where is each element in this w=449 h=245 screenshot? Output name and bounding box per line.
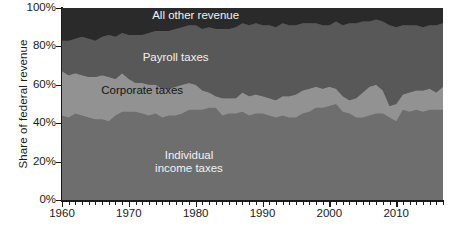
x-minor-tick <box>430 201 431 205</box>
x-minor-tick <box>269 201 270 205</box>
stacked-area-svg <box>62 8 443 200</box>
x-minor-tick <box>75 201 76 205</box>
x-minor-tick <box>156 201 157 205</box>
x-minor-tick <box>115 201 116 205</box>
x-minor-tick <box>343 201 344 205</box>
x-minor-tick <box>136 201 137 205</box>
x-tick-label: 2010 <box>383 207 409 219</box>
x-minor-tick <box>436 201 437 205</box>
x-minor-tick <box>376 201 377 205</box>
y-tick-label: 40% <box>10 117 56 129</box>
x-minor-tick <box>363 201 364 205</box>
y-tick-mark <box>56 8 61 9</box>
x-minor-tick <box>323 201 324 205</box>
x-minor-tick <box>122 201 123 205</box>
x-minor-tick <box>162 201 163 205</box>
y-tick-mark <box>56 162 61 163</box>
y-tick-mark <box>56 46 61 47</box>
x-minor-tick <box>390 201 391 205</box>
x-tick-label: 1970 <box>116 207 142 219</box>
x-minor-tick <box>89 201 90 205</box>
x-minor-tick <box>369 201 370 205</box>
x-minor-tick <box>216 201 217 205</box>
x-minor-tick <box>403 201 404 205</box>
y-tick-label: 20% <box>10 156 56 168</box>
chart-figure: Share of federal revenue 0%20%40%60%80%1… <box>0 0 449 245</box>
x-minor-tick <box>410 201 411 205</box>
x-minor-tick <box>336 201 337 205</box>
x-minor-tick <box>296 201 297 205</box>
x-minor-tick <box>256 201 257 205</box>
x-minor-tick <box>69 201 70 205</box>
x-minor-tick <box>182 201 183 205</box>
x-minor-tick <box>316 201 317 205</box>
x-minor-tick <box>309 201 310 205</box>
y-tick-mark <box>56 123 61 124</box>
x-tick-label: 2000 <box>317 207 343 219</box>
x-minor-tick <box>383 201 384 205</box>
x-minor-tick <box>416 201 417 205</box>
x-tick-label: 1990 <box>250 207 276 219</box>
x-minor-tick <box>423 201 424 205</box>
x-minor-tick <box>109 201 110 205</box>
y-tick-mark <box>56 200 61 201</box>
x-minor-tick <box>95 201 96 205</box>
y-tick-label: 80% <box>10 41 56 53</box>
x-minor-tick <box>303 201 304 205</box>
x-minor-tick <box>443 201 444 205</box>
x-minor-tick <box>276 201 277 205</box>
x-tick-label: 1980 <box>183 207 209 219</box>
stacked-area-plot <box>62 8 443 200</box>
x-minor-tick <box>102 201 103 205</box>
x-minor-tick <box>202 201 203 205</box>
x-minor-tick <box>356 201 357 205</box>
y-tick-label: 60% <box>10 79 56 91</box>
x-minor-tick <box>289 201 290 205</box>
x-minor-tick <box>236 201 237 205</box>
x-minor-tick <box>283 201 284 205</box>
x-minor-tick <box>209 201 210 205</box>
y-tick-mark <box>56 85 61 86</box>
x-minor-tick <box>176 201 177 205</box>
x-axis-line <box>61 200 444 202</box>
x-minor-tick <box>349 201 350 205</box>
x-minor-tick <box>142 201 143 205</box>
x-tick-label: 1960 <box>49 207 75 219</box>
y-tick-label: 0% <box>10 194 56 206</box>
x-minor-tick <box>169 201 170 205</box>
x-minor-tick <box>242 201 243 205</box>
x-minor-tick <box>249 201 250 205</box>
y-tick-label: 100% <box>10 2 56 14</box>
area-band <box>62 104 443 200</box>
x-minor-tick <box>149 201 150 205</box>
x-minor-tick <box>222 201 223 205</box>
x-minor-tick <box>82 201 83 205</box>
x-minor-tick <box>229 201 230 205</box>
x-minor-tick <box>189 201 190 205</box>
